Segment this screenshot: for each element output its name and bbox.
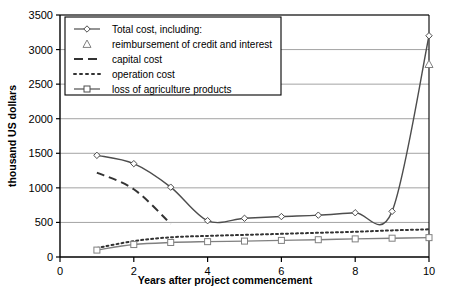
y-tick-label: 1000 xyxy=(29,182,53,194)
y-axis-tick-labels: 0500100015002000250030003500 xyxy=(29,9,53,263)
y-tick-label: 1500 xyxy=(29,147,53,159)
chart-legend: Total cost, including:reimbursement of c… xyxy=(65,17,281,95)
x-tick-label: 8 xyxy=(352,265,358,277)
data-point-square xyxy=(315,237,321,243)
data-point-square xyxy=(426,235,432,241)
chart-container: 0500100015002000250030003500 0246810 Yea… xyxy=(0,0,449,302)
y-axis-title: thousand US dollars xyxy=(6,85,18,187)
data-point-square xyxy=(205,239,211,245)
y-tick-label: 500 xyxy=(35,216,53,228)
x-tick-label: 2 xyxy=(131,265,137,277)
x-tick-label: 0 xyxy=(57,265,63,277)
data-point-square xyxy=(84,86,90,92)
data-point-square xyxy=(352,236,358,242)
legend-label: loss of agriculture products xyxy=(112,84,232,95)
line-chart: 0500100015002000250030003500 0246810 Yea… xyxy=(0,0,449,302)
data-point-square xyxy=(94,247,100,253)
legend-item[interactable]: reimbursement of credit and interest xyxy=(83,39,272,50)
legend-label: Total cost, including: xyxy=(112,24,202,35)
y-tick-label: 2500 xyxy=(29,78,53,90)
data-point-square xyxy=(242,238,248,244)
legend-label: operation cost xyxy=(112,69,175,80)
data-point-square xyxy=(168,239,174,245)
legend-label: capital cost xyxy=(112,54,162,65)
legend-label: reimbursement of credit and interest xyxy=(112,39,272,50)
data-point-square xyxy=(278,237,284,243)
y-tick-label: 2000 xyxy=(29,113,53,125)
data-point-square xyxy=(131,242,137,248)
y-tick-label: 3500 xyxy=(29,9,53,21)
x-axis-ticks xyxy=(60,257,429,262)
y-tick-label: 0 xyxy=(47,251,53,263)
x-axis-title: Years after project commencement xyxy=(138,274,313,286)
y-tick-label: 3000 xyxy=(29,44,53,56)
data-point-square xyxy=(389,235,395,241)
x-tick-label: 10 xyxy=(423,265,435,277)
